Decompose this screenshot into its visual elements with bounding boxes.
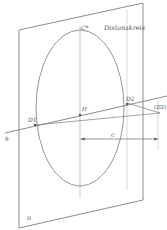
label-d1: D1 <box>27 116 37 123</box>
label-distance-c: c <box>111 131 115 139</box>
label-c-star: C* <box>81 24 89 31</box>
arrowhead-left <box>80 138 85 141</box>
point-d1 <box>34 124 36 126</box>
label-horizon: h <box>5 135 9 142</box>
point-d2 <box>126 103 128 105</box>
label-picture-plane: π <box>26 214 32 222</box>
d1-eye-line <box>35 113 160 125</box>
perspective-diagram: Distanzkreis C* H D1 D2 (D2) h c π <box>0 0 167 230</box>
label-d2-far: (D2) <box>154 104 166 110</box>
label-d2: D2 <box>125 95 135 102</box>
label-distance-circle: Distanzkreis <box>103 24 146 32</box>
point-h <box>79 114 81 116</box>
label-principal-point: H <box>81 106 87 112</box>
